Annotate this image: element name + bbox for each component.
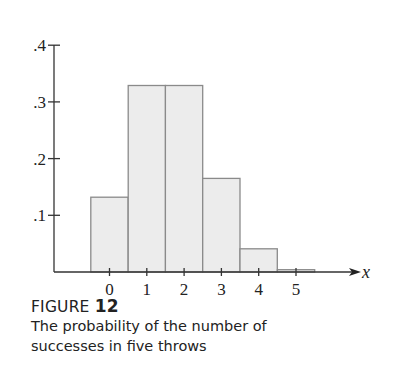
y-tick-label: .4 — [33, 36, 46, 55]
x-tick-label: 2 — [180, 280, 189, 299]
x-tick-label: 4 — [254, 280, 263, 299]
caption-line-2: successes in five throws — [31, 338, 207, 354]
bars-group — [91, 86, 315, 273]
figure-title: FIGURE 12 — [31, 296, 119, 316]
y-tick-label: .3 — [33, 93, 46, 112]
x-tick-label: 5 — [292, 280, 301, 299]
x-tick-label: 3 — [217, 280, 226, 299]
bar-1 — [128, 86, 165, 273]
bar-3 — [203, 178, 240, 272]
y-ticks: .1.2.3.4 — [33, 36, 60, 225]
y-tick-label: .2 — [33, 150, 46, 169]
histogram-chart: .1.2.3.4 x 012345 — [0, 0, 394, 300]
y-tick-label: .1 — [33, 206, 46, 225]
bar-0 — [91, 197, 128, 272]
caption-line-1: The probability of the number of — [31, 318, 267, 334]
x-axis-label: x — [361, 262, 370, 282]
figure-label: FIGURE — [31, 298, 90, 316]
x-tick-label: 1 — [143, 280, 152, 299]
bar-2 — [165, 86, 202, 273]
figure-number: 12 — [95, 296, 119, 316]
